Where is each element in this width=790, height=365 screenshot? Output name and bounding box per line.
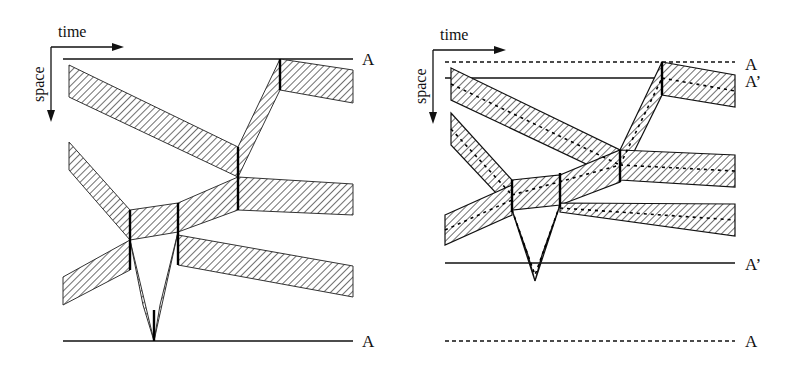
boundary-label-bottom: A: [362, 332, 375, 351]
boundary-label-top: A: [362, 50, 375, 69]
space-axis-label: space: [30, 66, 48, 102]
left-panel: time space A A: [30, 23, 375, 351]
boundary-label-top-inner: A’: [745, 72, 761, 91]
right-panel: time space: [412, 26, 761, 351]
space-axis-label: space: [412, 68, 430, 104]
spacetime-diagram: time space A A: [0, 0, 790, 365]
hatched-bands: [445, 62, 735, 281]
boundary-label-bottom-outer: A: [745, 332, 758, 351]
time-axis-label: time: [440, 26, 468, 43]
boundary-label-bottom-inner: A’: [745, 255, 761, 274]
time-axis-label: time: [58, 23, 86, 40]
hatched-bands: [63, 59, 353, 341]
